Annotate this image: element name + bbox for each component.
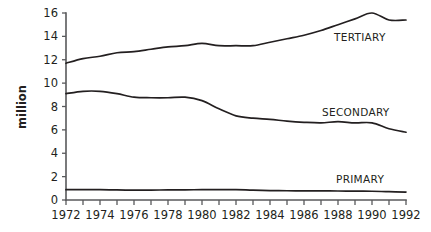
x-tick-label: 1986: [289, 208, 318, 222]
x-tick-labels: 1972197419761978198019821984198619881990…: [51, 208, 420, 222]
series-label-primary: PRIMARY: [336, 173, 384, 185]
line-chart: 0246810121416 19721974197619781980198219…: [0, 0, 431, 232]
y-tick-label: 12: [43, 53, 58, 67]
x-tick-label: 1992: [391, 208, 420, 222]
y-tick-label: 14: [43, 29, 58, 43]
x-tick-label: 1988: [323, 208, 352, 222]
series-line-primary: [66, 190, 406, 192]
x-tick-label: 1982: [221, 208, 250, 222]
y-tick-labels: 0246810121416: [43, 6, 58, 207]
y-tick-label: 6: [51, 123, 58, 137]
x-tick-label: 1974: [85, 208, 114, 222]
x-tick-label: 1990: [357, 208, 386, 222]
x-tick-label: 1980: [187, 208, 216, 222]
x-tick-label: 1972: [51, 208, 80, 222]
y-tick-label: 2: [51, 170, 58, 184]
x-tick-label: 1976: [119, 208, 148, 222]
y-axis-title: million: [15, 85, 29, 129]
chart-canvas: 0246810121416 19721974197619781980198219…: [0, 0, 431, 232]
y-axis-group: 0246810121416: [43, 6, 66, 207]
x-tick-label: 1984: [255, 208, 284, 222]
series-label-tertiary: TERTIARY: [333, 31, 386, 43]
y-tick-label: 8: [51, 100, 58, 114]
y-tick-label: 4: [51, 146, 58, 160]
y-tick-label: 0: [51, 193, 58, 207]
series-label-secondary: SECONDARY: [322, 106, 390, 118]
y-tick-label: 10: [43, 76, 58, 90]
x-tick-marks: [66, 200, 406, 205]
x-axis-group: 1972197419761978198019821984198619881990…: [51, 200, 420, 222]
x-tick-label: 1978: [153, 208, 182, 222]
y-tick-label: 16: [43, 6, 58, 20]
